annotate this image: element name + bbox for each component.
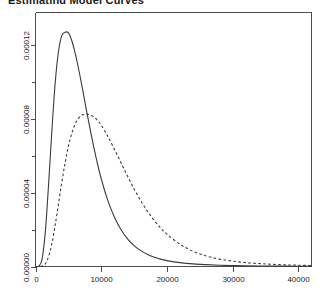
y-tick-label: 0.00004: [22, 178, 31, 207]
density-plot: 0.000000.000040.000080.00012 01000020000…: [0, 0, 328, 299]
x-tick-label: 30000: [222, 275, 245, 284]
y-tick-label: 0.00000: [22, 252, 31, 281]
x-tick-label: 40000: [287, 275, 310, 284]
x-tick-label: 20000: [156, 275, 179, 284]
y-axis-ticks: 0.000000.000040.000080.00012: [22, 30, 36, 281]
x-tick-label: 10000: [90, 275, 113, 284]
plot-frame: [36, 13, 312, 267]
series-solid-curve: [36, 32, 312, 267]
y-tick-label: 0.00012: [22, 30, 31, 59]
y-tick-label: 0.00008: [22, 104, 31, 133]
x-axis-ticks: 010000200003000040000: [34, 267, 310, 284]
figure-container: Estimating Model Curves 0.000000.000040.…: [0, 0, 328, 299]
data-curves: [36, 32, 312, 267]
x-tick-label: 0: [34, 275, 39, 284]
series-dashed-curve: [36, 114, 312, 267]
plot-border: [36, 13, 312, 267]
